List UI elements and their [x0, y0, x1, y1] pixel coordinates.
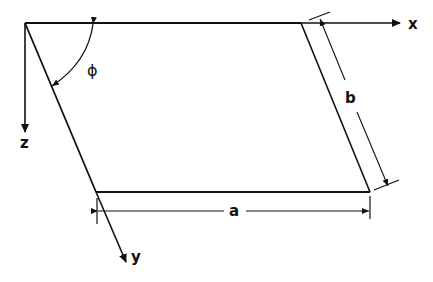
angle-phi-indicator: ϕ — [52, 24, 98, 86]
angle-phi-label: ϕ — [87, 61, 98, 80]
dimension-a-label: a — [229, 202, 239, 220]
parallelogram-diagram: x z y ϕ a b — [0, 0, 433, 282]
parallelogram-shape — [25, 23, 370, 192]
y-axis-label: y — [131, 248, 141, 266]
y-axis: y — [96, 192, 141, 266]
dimension-a: a — [97, 196, 370, 224]
x-axis: x — [301, 15, 418, 33]
dimension-b: b — [309, 12, 399, 190]
dimension-b-label: b — [345, 89, 356, 107]
z-axis-label: z — [20, 134, 29, 152]
z-axis: z — [20, 23, 29, 152]
x-axis-label: x — [408, 15, 418, 33]
